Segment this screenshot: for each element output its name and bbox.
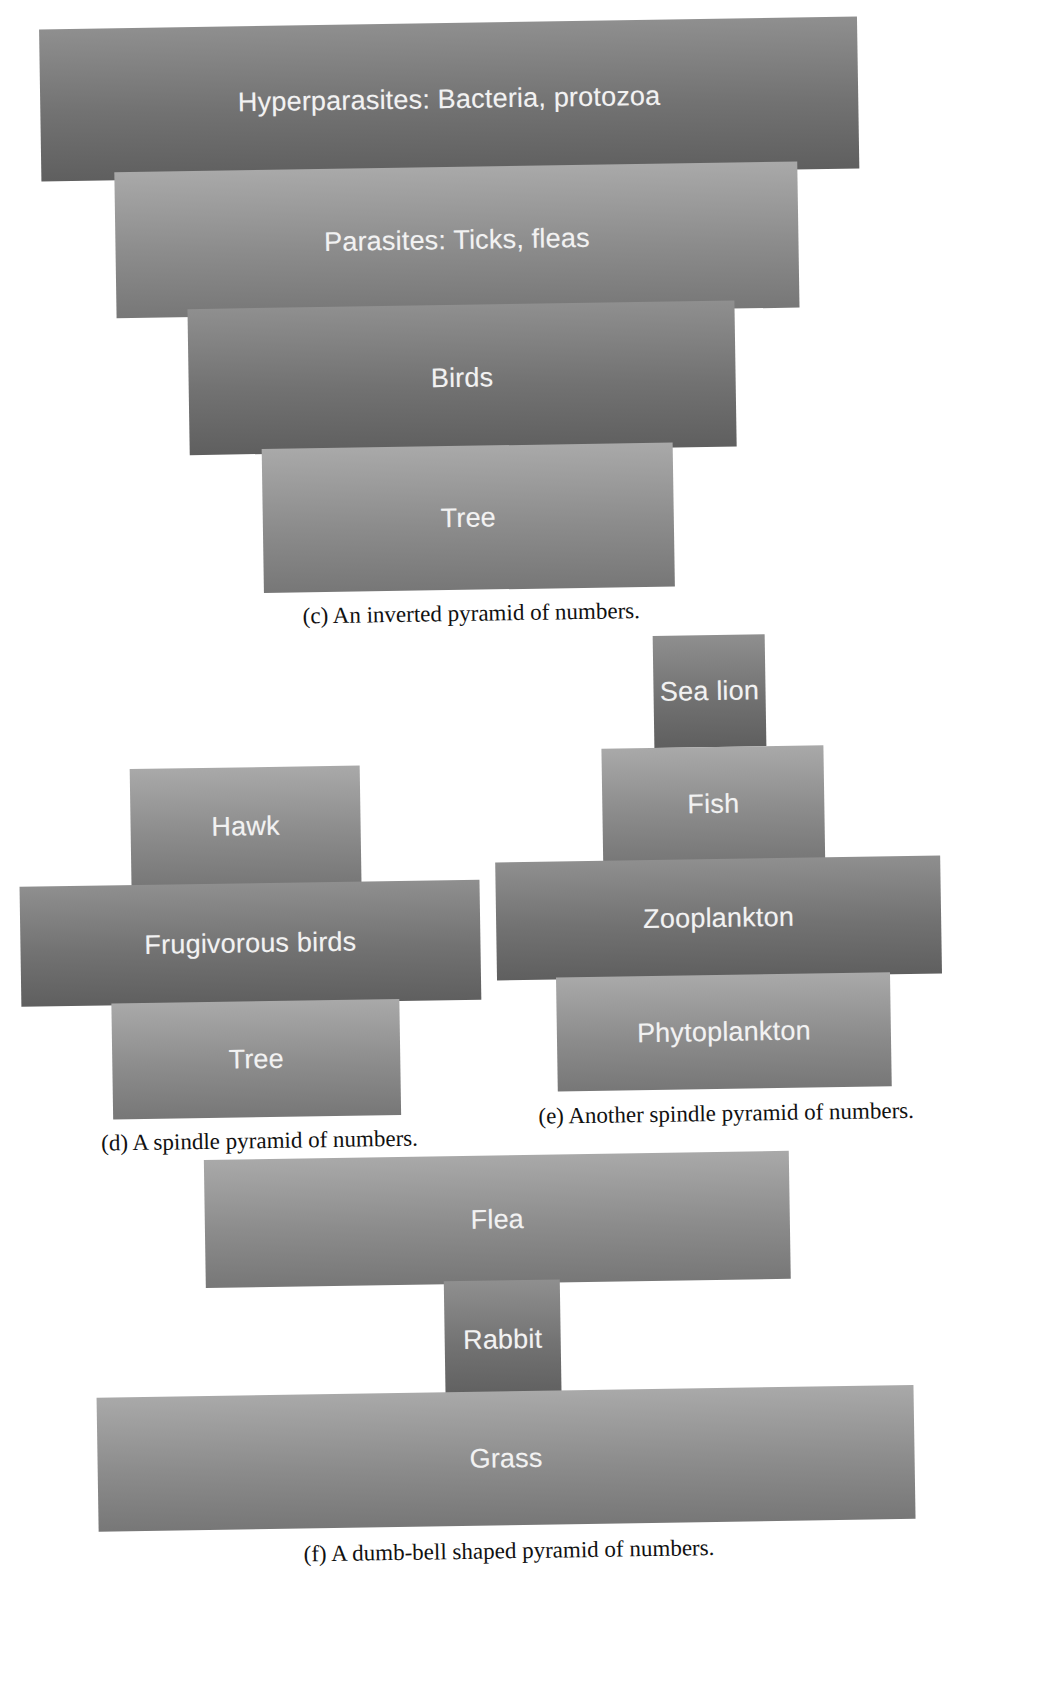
level-label: Phytoplankton — [637, 1015, 811, 1049]
level-flea: Flea — [204, 1151, 791, 1288]
level-grass: Grass — [97, 1385, 916, 1532]
spindle-pyramid-e: Sea lion Fish Zooplankton Phytoplankton … — [0, 0, 1026, 8]
level-label: Frugivorous birds — [144, 926, 356, 960]
level-label: Sea lion — [660, 675, 760, 708]
caption-f: (f) A dumb-bell shaped pyramid of number… — [303, 1535, 714, 1567]
level-birds: Birds — [187, 301, 736, 456]
level-parasites: Parasites: Ticks, fleas — [114, 162, 799, 319]
level-label: Tree — [440, 502, 496, 534]
level-label: Hawk — [211, 810, 280, 842]
level-rabbit: Rabbit — [444, 1279, 562, 1399]
level-label: Tree — [228, 1043, 284, 1075]
inverted-pyramid-c: Hyperparasites: Bacteria, protozoa Paras… — [0, 0, 1026, 8]
caption-d: (d) A spindle pyramid of numbers. — [101, 1126, 418, 1157]
level-label: Parasites: Ticks, fleas — [324, 222, 590, 257]
caption-c: (c) An inverted pyramid of numbers. — [302, 598, 640, 629]
level-phytoplankton: Phytoplankton — [556, 972, 892, 1091]
level-sea-lion: Sea lion — [653, 634, 767, 748]
level-label: Birds — [431, 362, 494, 394]
level-label: Hyperparasites: Bacteria, protozoa — [238, 80, 661, 118]
spindle-pyramid-d: Hawk Frugivorous birds Tree (d) A spindl… — [0, 0, 1026, 8]
level-fish: Fish — [601, 745, 825, 862]
level-label: Fish — [687, 788, 739, 820]
level-zooplankton: Zooplankton — [495, 855, 942, 980]
level-label: Flea — [470, 1203, 524, 1235]
level-label: Rabbit — [463, 1323, 543, 1355]
level-frugivorous-birds: Frugivorous birds — [20, 880, 482, 1007]
level-hyperparasites: Hyperparasites: Bacteria, protozoa — [39, 17, 859, 182]
level-hawk: Hawk — [130, 766, 362, 888]
dumbbell-pyramid-f: Flea Rabbit Grass (f) A dumb-bell shaped… — [0, 0, 1026, 8]
level-label: Grass — [469, 1442, 542, 1474]
caption-e: (e) Another spindle pyramid of numbers. — [538, 1098, 914, 1130]
level-tree: Tree — [111, 999, 401, 1120]
pyramid-figures-page: Hyperparasites: Bacteria, protozoa Paras… — [0, 0, 1039, 1697]
level-tree: Tree — [262, 443, 675, 593]
level-label: Zooplankton — [643, 901, 794, 934]
